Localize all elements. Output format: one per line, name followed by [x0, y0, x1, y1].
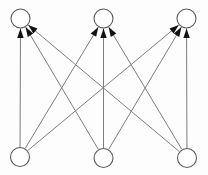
node-t1[interactable] — [11, 9, 30, 28]
node-b1[interactable] — [11, 148, 30, 167]
node-t2[interactable] — [94, 9, 113, 28]
node-b2[interactable] — [94, 149, 113, 168]
arrowhead-b1-to-t2 — [91, 27, 99, 37]
arrowhead-b2-to-t2 — [100, 29, 106, 39]
node-t3[interactable] — [177, 9, 196, 28]
edges-layer — [20, 25, 187, 152]
bipartite-graph-figure: Bipartite directed graph — [0, 0, 208, 175]
graph-canvas — [0, 0, 208, 175]
arrowhead-b3-to-t3 — [183, 29, 189, 39]
arrowhead-b1-to-t1 — [17, 29, 23, 39]
node-b3[interactable] — [178, 149, 197, 168]
arrowhead-b3-to-t2 — [109, 27, 117, 37]
